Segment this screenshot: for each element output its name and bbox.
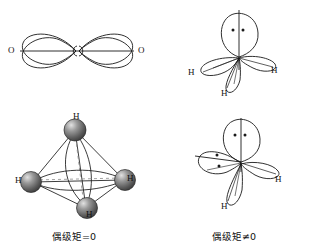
h2o-orbital-drawing (155, 110, 309, 248)
diagram-panel-nh3: H H H (155, 0, 309, 110)
nh3-hydrogen-label-right: H (271, 66, 278, 75)
ch4-orbital-arc-1 (65, 132, 86, 206)
h2o-lone-pair-dot-top-1 (234, 134, 237, 137)
co2-lobe-left-upper (22, 34, 76, 64)
ch4-edge-left-right (32, 180, 124, 182)
nh3-lone-pair-lobe (221, 13, 258, 57)
co2-lobe-left-lower (22, 38, 76, 68)
nh3-hydrogen-label-left: H (188, 68, 195, 77)
h2o-bond-line-bottom2 (235, 163, 241, 196)
co2-orbital-drawing (0, 0, 155, 110)
h2o-hydrogen-label-bottom: H (221, 202, 228, 211)
h2o-bond-line-bottom (228, 163, 241, 201)
ch4-sphere-top (64, 119, 86, 141)
nh3-orbital-drawing (155, 0, 309, 110)
h2o-bond-lobe-bottom (227, 164, 243, 205)
caption-dipole-nonzero: 偶级矩≠0 (212, 229, 256, 243)
co2-lobe-right-upper (79, 34, 133, 64)
ch4-hydrogen-label-bottom: H (86, 210, 93, 219)
h2o-lone-pair-dot-left-1 (216, 154, 219, 157)
diagram-panel-ch4: H H H (0, 110, 155, 248)
co2-lobe-right-lower (79, 38, 133, 68)
ch4-hydrogen-label-top: H (73, 112, 80, 121)
co2-oxygen-label-left: O (8, 46, 15, 55)
h2o-lone-pair-lobe-left (198, 152, 241, 174)
ch4-orbital-arc-2 (75, 132, 91, 206)
ch4-edge-dashed-horizontal (34, 178, 122, 180)
caption-dipole-zero: 偶级矩=0 (52, 229, 96, 243)
diagram-panel-h2o: H H 偶级矩≠0 (155, 110, 309, 248)
ch4-hydrogen-label-right: H (127, 174, 134, 183)
diagram-panel-co2: O O (0, 0, 155, 110)
co2-oxygen-label-right: O (138, 46, 145, 55)
nh3-lone-pair-dot-1 (232, 29, 235, 32)
ch4-hydrogen-label-left: H (15, 176, 22, 185)
h2o-hydrogen-label-right: H (275, 175, 282, 184)
nh3-bond-line-bottom (227, 58, 239, 88)
nh3-lone-pair-dot-2 (242, 29, 245, 32)
h2o-lone-pair-dot-top-2 (244, 134, 247, 137)
nh3-hydrogen-label-bottom: H (221, 89, 228, 98)
ch4-sphere-left (21, 172, 42, 193)
